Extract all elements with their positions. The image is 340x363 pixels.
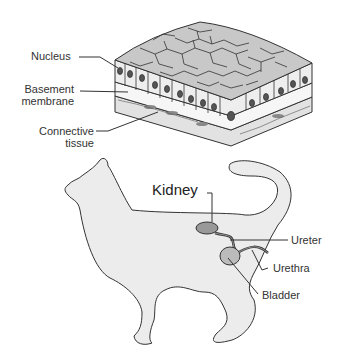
nucleus-leader	[79, 57, 118, 68]
label-bladder: Bladder	[262, 289, 300, 301]
label-basement-line2: membrane	[18, 95, 74, 107]
label-basement-membrane: Basement membrane	[18, 83, 74, 107]
label-connective-line1: Connective	[30, 125, 94, 137]
label-ureter: Ureter	[291, 234, 322, 246]
label-basement-line1: Basement	[18, 83, 74, 95]
epithelium-block	[115, 22, 312, 146]
label-kidney: Kidney	[152, 184, 198, 196]
kidney-organ	[196, 222, 218, 234]
label-connective-line2: tissue	[30, 137, 94, 149]
label-connective-tissue: Connective tissue	[30, 125, 94, 149]
bladder-organ	[220, 247, 240, 265]
label-urethra: Urethra	[273, 262, 310, 274]
label-nucleus: Nucleus	[31, 50, 71, 62]
